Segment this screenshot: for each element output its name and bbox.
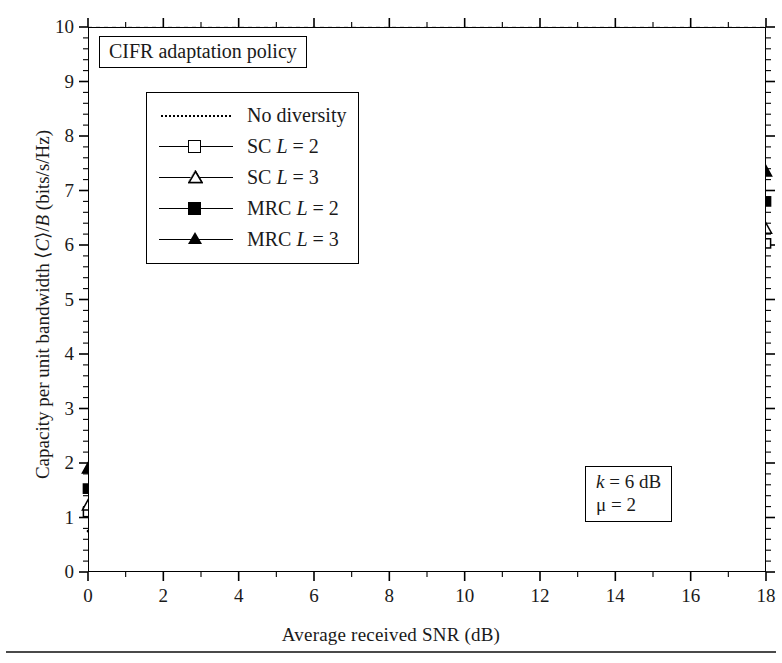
param-mu-value: = 2 xyxy=(606,494,636,515)
y-tick-label: 2 xyxy=(36,453,74,472)
y-tick-label: 3 xyxy=(36,399,74,418)
legend-sample-3 xyxy=(157,199,235,219)
param-line-k: k = 6 dB xyxy=(596,470,661,493)
legend-sample-0 xyxy=(157,106,235,126)
legend-label-value-4: = 3 xyxy=(308,228,339,250)
y-axis-label-b: B xyxy=(32,215,53,227)
legend-item-1: SC L = 2 xyxy=(157,131,346,162)
y-tick-label: 5 xyxy=(36,290,74,309)
x-tick-label: 14 xyxy=(595,586,635,605)
legend-label-symbol-2: L xyxy=(276,166,287,188)
y-tick-label: 8 xyxy=(36,126,74,145)
param-k-value: = 6 dB xyxy=(604,471,661,492)
x-axis-label: Average received SNR (dB) xyxy=(0,624,782,646)
legend-label-3: MRC L = 2 xyxy=(235,197,339,220)
legend-label-0: No diversity xyxy=(235,104,346,127)
y-tick-label: 7 xyxy=(36,181,74,200)
legend-dotted-line-icon xyxy=(161,115,231,117)
y-axis-label-pre: Capacity per unit bandwidth ⟨ xyxy=(32,252,53,480)
legend-label-2: SC L = 3 xyxy=(235,166,319,189)
legend-item-0: No diversity xyxy=(157,100,346,131)
legend-item-3: MRC L = 2 xyxy=(157,193,346,224)
legend-label-symbol-1: L xyxy=(276,135,287,157)
y-tick-label: 10 xyxy=(36,17,74,36)
y-tick-label: 6 xyxy=(36,235,74,254)
legend-label-symbol-3: L xyxy=(296,197,307,219)
legend-item-4: MRC L = 3 xyxy=(157,224,346,255)
x-tick-label: 2 xyxy=(143,586,183,605)
legend-sample-2 xyxy=(157,168,235,188)
policy-title-text: CIFR adaptation policy xyxy=(109,40,297,62)
legend-filled-square-icon xyxy=(188,202,201,215)
parameter-annotation-box: k = 6 dB μ = 2 xyxy=(585,466,672,522)
legend-box: No diversitySC L = 2SC L = 3MRC L = 2MRC… xyxy=(146,92,359,264)
legend-label-main-1: SC xyxy=(247,135,276,157)
x-tick-label: 16 xyxy=(671,586,711,605)
legend-label-symbol-4: L xyxy=(296,228,307,250)
legend-label-value-1: = 2 xyxy=(288,135,319,157)
x-tick-label: 6 xyxy=(294,586,334,605)
legend-label-value-2: = 3 xyxy=(288,166,319,188)
param-line-mu: μ = 2 xyxy=(596,493,661,516)
legend-label-main-0: No diversity xyxy=(247,104,346,126)
y-tick-label: 1 xyxy=(36,508,74,527)
x-tick-label: 10 xyxy=(445,586,485,605)
legend-label-1: SC L = 2 xyxy=(235,135,319,158)
legend-label-4: MRC L = 3 xyxy=(235,228,339,251)
legend-label-main-3: MRC xyxy=(247,197,296,219)
legend-open-square-icon xyxy=(188,140,201,153)
x-tick-label: 12 xyxy=(520,586,560,605)
x-tick-label: 0 xyxy=(68,586,108,605)
policy-title-box: CIFR adaptation policy xyxy=(99,36,307,68)
x-tick-label: 4 xyxy=(219,586,259,605)
x-tick-label: 18 xyxy=(746,586,782,605)
legend-sample-4 xyxy=(157,230,235,250)
figure-container: CIFR adaptation policy No diversitySC L … xyxy=(0,0,782,663)
y-tick-label: 0 xyxy=(36,562,74,581)
param-mu-symbol: μ xyxy=(596,494,606,515)
legend-label-value-3: = 2 xyxy=(308,197,339,219)
x-tick-label: 8 xyxy=(369,586,409,605)
y-tick-label: 9 xyxy=(36,72,74,91)
legend-filled-triangle-icon xyxy=(188,232,202,244)
figure-bottom-rule xyxy=(6,651,776,653)
legend-label-main-4: MRC xyxy=(247,228,296,250)
legend-sample-1 xyxy=(157,137,235,157)
legend-open-triangle-icon xyxy=(188,170,202,182)
legend-label-main-2: SC xyxy=(247,166,276,188)
y-tick-label: 4 xyxy=(36,344,74,363)
legend-item-2: SC L = 3 xyxy=(157,162,346,193)
